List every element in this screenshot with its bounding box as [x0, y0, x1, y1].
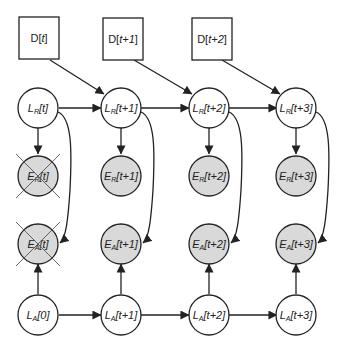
- svg-text:ER[t+1]: ER[t+1]: [104, 170, 139, 183]
- node-la-t3: LA[t+3]: [276, 295, 316, 335]
- edge-lr-t-to-ea-t: [58, 112, 71, 243]
- svg-text:EA[t+2]: EA[t+2]: [192, 238, 227, 251]
- node-ea-t1: EA[t+1]: [101, 224, 141, 264]
- diagram-svg: D[t] D[t+1] D[t+2] LR[t] LR[t+1] LR[t+2]…: [0, 0, 345, 355]
- svg-text:ER[t+3]: ER[t+3]: [279, 170, 314, 183]
- row-er: ER[t] ER[t+1] ER[t+2] ER[t+3]: [16, 154, 316, 198]
- node-d-t2: D[t+2]: [192, 18, 232, 60]
- svg-text:LA[t+2]: LA[t+2]: [193, 309, 226, 322]
- node-ea-t3: EA[t+3]: [276, 224, 316, 264]
- node-la-t2: LA[t+2]: [189, 295, 229, 335]
- data-nodes: D[t] D[t+1] D[t+2]: [19, 17, 232, 60]
- svg-text:LR[t+3]: LR[t+3]: [280, 102, 314, 115]
- node-ea-t: EA[t]: [16, 222, 60, 266]
- edge-d-t-to-lr-t1: [50, 60, 104, 94]
- node-la-0: LA[0]: [18, 295, 58, 335]
- svg-text:D[t+1]: D[t+1]: [108, 33, 138, 45]
- svg-text:LA[0]: LA[0]: [26, 309, 50, 322]
- edge-lr-t1-to-ea-t1: [141, 112, 154, 243]
- svg-text:D[t+2]: D[t+2]: [197, 33, 227, 45]
- node-lr-t1: LR[t+1]: [101, 88, 141, 128]
- svg-text:ER[t+2]: ER[t+2]: [192, 170, 227, 183]
- svg-text:D[t]: D[t]: [30, 32, 47, 44]
- row-ea: EA[t] EA[t+1] EA[t+2] EA[t+3]: [16, 222, 316, 266]
- edge-lr-t3-to-ea-t3: [316, 112, 329, 243]
- edge-d-t1-to-lr-t2: [134, 60, 192, 94]
- svg-text:EA[t+1]: EA[t+1]: [104, 238, 139, 251]
- node-lr-t3: LR[t+3]: [276, 88, 316, 128]
- node-d-t: D[t]: [19, 17, 59, 59]
- node-er-t: ER[t]: [16, 154, 60, 198]
- svg-text:LR[t+1]: LR[t+1]: [105, 102, 139, 115]
- svg-text:LR[t]: LR[t]: [28, 102, 49, 115]
- svg-text:LA[t+1]: LA[t+1]: [105, 309, 138, 322]
- node-ea-t2: EA[t+2]: [189, 224, 229, 264]
- node-er-t1: ER[t+1]: [101, 156, 141, 196]
- edge-lr-t2-to-ea-t2: [229, 112, 242, 243]
- edge-d-t2-to-lr-t3: [222, 60, 280, 94]
- svg-text:EA[t+3]: EA[t+3]: [279, 238, 314, 251]
- node-lr-t2: LR[t+2]: [189, 88, 229, 128]
- node-lr-t: LR[t]: [18, 88, 58, 128]
- node-er-t3: ER[t+3]: [276, 156, 316, 196]
- node-d-t1: D[t+1]: [103, 18, 143, 60]
- node-er-t2: ER[t+2]: [189, 156, 229, 196]
- dbn-diagram: D[t] D[t+1] D[t+2] LR[t] LR[t+1] LR[t+2]…: [0, 0, 345, 355]
- svg-text:LR[t+2]: LR[t+2]: [193, 102, 227, 115]
- node-la-t1: LA[t+1]: [101, 295, 141, 335]
- svg-text:LA[t+3]: LA[t+3]: [280, 309, 313, 322]
